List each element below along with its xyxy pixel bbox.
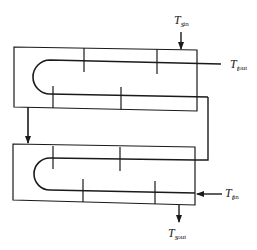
heat-exchanger-diagram <box>0 0 257 250</box>
label-tube-out: Ttout <box>230 58 247 73</box>
label-subsub: out <box>177 233 186 241</box>
label-main: T <box>230 57 237 71</box>
upper-shell <box>14 47 197 111</box>
label-main: T <box>174 13 181 27</box>
label-subsub: in <box>233 193 238 201</box>
upper-tube-bundle <box>33 60 221 97</box>
lower-tube-bundle <box>34 158 195 193</box>
label-subsub: out <box>238 64 247 72</box>
lower-shell <box>13 144 195 205</box>
label-main: T <box>225 186 232 200</box>
label-tube-in: Ttin <box>225 187 239 202</box>
label-shell-out: Tsout <box>168 227 186 242</box>
label-main: T <box>168 226 175 240</box>
label-shell-in: Tsin <box>174 14 189 29</box>
label-subsub: in <box>183 20 188 28</box>
